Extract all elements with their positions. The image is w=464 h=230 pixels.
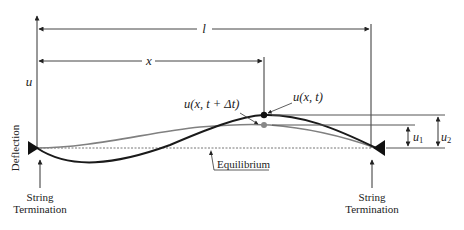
left-termination-label-1: String (27, 191, 54, 203)
axis-label: u (26, 74, 33, 89)
right-termination-label-2: Termination (345, 203, 399, 215)
point-u-next (261, 122, 267, 128)
right-termination-label-1: String (359, 191, 386, 203)
u-next-label: u(x, t + Δt) (184, 97, 239, 111)
curve-u-now (37, 115, 376, 162)
curve-u-next (37, 124, 376, 148)
u-now-label: u(x, t) (293, 90, 323, 104)
string-vibration-diagram: u Deflection l x u(x, t + Δt) u(x, t) Eq… (0, 0, 464, 230)
point-u-now (261, 112, 267, 118)
deflection-label: Deflection (9, 124, 21, 171)
u1-label: u1 (413, 130, 423, 145)
right-termination-icon (373, 140, 385, 156)
equilibrium-label: Equilibrium (217, 158, 271, 170)
position-label: x (145, 53, 152, 68)
left-termination-label-2: Termination (13, 203, 67, 215)
length-label: l (202, 21, 206, 36)
leader-u-now (268, 103, 292, 113)
length-dimension (39, 24, 371, 148)
u2-label: u2 (441, 130, 451, 145)
